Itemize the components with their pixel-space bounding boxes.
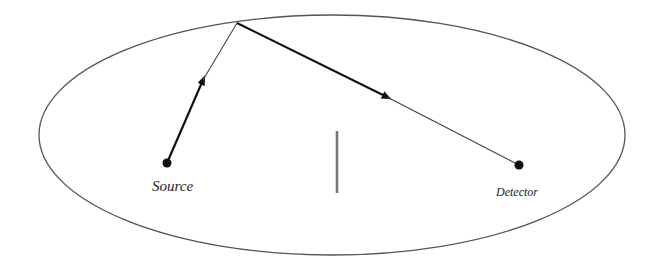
source-point-icon [163, 159, 172, 168]
detector-point-icon [515, 161, 524, 170]
source-label: Source [152, 178, 193, 194]
incident-ray [167, 23, 237, 163]
room-boundary-ellipse [39, 15, 625, 255]
diagram-canvas: Source Detector [0, 0, 647, 261]
detector-label: Detector [495, 185, 538, 199]
reflected-ray [237, 23, 519, 165]
